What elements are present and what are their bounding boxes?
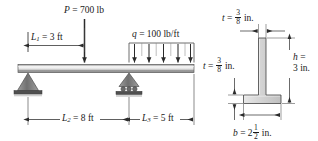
flange-thickness-label: t = 38 in.: [203, 57, 235, 73]
L3-value: = 5 ft: [151, 113, 174, 123]
distributed-load: [129, 43, 194, 63]
height-label: h = 3 in.: [293, 52, 310, 73]
height-line-2: 3 in.: [293, 63, 310, 74]
beam-cross-section-figure: P = 700 lb q = 100 lb/ft L1 = 3 ft L2 = …: [0, 0, 318, 141]
flange-thickness-equals: =: [206, 61, 216, 71]
flange-thickness-fraction: 38: [216, 57, 222, 73]
stem-thickness-equals: =: [225, 13, 235, 23]
flange-thickness-denominator: 8: [216, 65, 222, 74]
beam-member: [18, 65, 194, 73]
height-equals: =: [298, 52, 306, 62]
stem-thickness-fraction: 38: [235, 9, 241, 25]
dimension-L3-label: L3 = 5 ft: [142, 114, 174, 124]
dimension-width: [244, 104, 282, 120]
stem-thickness-numerator: 3: [235, 9, 241, 17]
point-load-label: P = 700 lb: [64, 6, 104, 16]
dimension-stem-thickness: [240, 24, 285, 38]
point-load-value: = 700 lb: [70, 5, 104, 15]
dimension-L2-label: L2 = 8 ft: [62, 114, 94, 124]
flange-thickness-numerator: 3: [216, 57, 222, 65]
dimension-flange-thickness: [228, 78, 243, 120]
distributed-load-label: q = 100 lb/ft: [132, 30, 179, 40]
stem-thickness-label: t = 38 in.: [222, 9, 254, 25]
pin-support: [14, 73, 42, 96]
dimension-L1-label: L1 = 3 ft: [31, 33, 63, 43]
width-label: b = 212 in.: [233, 124, 272, 140]
dimension-height: [267, 38, 295, 104]
L1-value: = 3 ft: [40, 32, 63, 42]
stem-thickness-denominator: 8: [235, 17, 241, 26]
width-unit: in.: [259, 128, 271, 138]
roller-support: [116, 73, 142, 97]
flange-thickness-unit: in.: [223, 61, 235, 71]
distributed-load-value: = 100 lb/ft: [137, 29, 180, 39]
height-line-1: h =: [293, 52, 310, 63]
cross-section-tshape: [244, 38, 282, 104]
width-equals: = 2: [238, 128, 253, 138]
L2-value: = 8 ft: [71, 113, 94, 123]
stem-thickness-unit: in.: [242, 13, 254, 23]
